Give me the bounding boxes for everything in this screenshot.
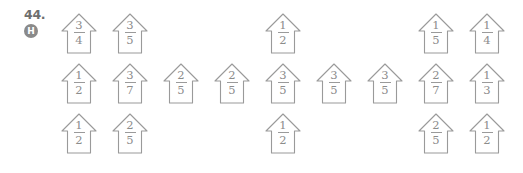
- house-icon: 12: [60, 62, 98, 105]
- fraction: 37: [111, 69, 149, 96]
- fraction: 12: [264, 119, 302, 146]
- house-icon: 35: [315, 62, 353, 105]
- fraction-denominator: 5: [366, 84, 404, 96]
- fraction-denominator: 5: [417, 34, 455, 46]
- house-icon: 12: [264, 12, 302, 55]
- fraction-numerator: 1: [468, 119, 506, 131]
- fraction-numerator: 2: [213, 69, 251, 81]
- fraction-denominator: 5: [264, 84, 302, 96]
- house-cell: 25: [111, 112, 154, 158]
- house-cell: 25: [417, 112, 460, 158]
- fraction: 12: [264, 19, 302, 46]
- fraction-numerator: 1: [60, 69, 98, 81]
- house-cell: 35: [111, 12, 154, 58]
- fraction: 27: [417, 69, 455, 96]
- house-cell: 12: [264, 112, 307, 158]
- house-cell: 12: [468, 112, 511, 158]
- fraction: 15: [417, 19, 455, 46]
- fraction-numerator: 2: [111, 119, 149, 131]
- fraction-numerator: 2: [162, 69, 200, 81]
- house-cell: 35: [264, 62, 307, 108]
- house-icon: 34: [60, 12, 98, 55]
- worksheet-problem-44: 44. H 3435121514123725253535352713122512…: [0, 0, 523, 173]
- house-icon: 12: [60, 112, 98, 155]
- house-icon: 13: [468, 62, 506, 105]
- house-cell: 34: [60, 12, 103, 58]
- fraction-denominator: 4: [60, 34, 98, 46]
- fraction: 35: [366, 69, 404, 96]
- fraction-numerator: 1: [468, 69, 506, 81]
- fraction-denominator: 7: [111, 84, 149, 96]
- fraction: 35: [315, 69, 353, 96]
- fraction-denominator: 5: [111, 134, 149, 146]
- fraction: 12: [60, 69, 98, 96]
- fraction-denominator: 5: [213, 84, 251, 96]
- house-icon: 27: [417, 62, 455, 105]
- house-icon: 35: [264, 62, 302, 105]
- fraction-denominator: 4: [468, 34, 506, 46]
- difficulty-badge: H: [24, 24, 38, 38]
- fraction: 25: [213, 69, 251, 96]
- house-cell: 12: [60, 112, 103, 158]
- fraction: 14: [468, 19, 506, 46]
- fraction-numerator: 3: [264, 69, 302, 81]
- fraction: 34: [60, 19, 98, 46]
- fraction-numerator: 2: [417, 69, 455, 81]
- fraction: 25: [111, 119, 149, 146]
- fraction: 12: [60, 119, 98, 146]
- house-icon: 14: [468, 12, 506, 55]
- fraction-denominator: 2: [468, 134, 506, 146]
- problem-number: 44.: [24, 8, 54, 21]
- house-cell: 14: [468, 12, 511, 58]
- fraction-numerator: 1: [417, 19, 455, 31]
- house-icon: 25: [162, 62, 200, 105]
- house-cell: 12: [60, 62, 103, 108]
- fraction: 13: [468, 69, 506, 96]
- fraction-numerator: 1: [60, 119, 98, 131]
- fraction-denominator: 5: [315, 84, 353, 96]
- fraction-denominator: 2: [264, 34, 302, 46]
- house-cell: 37: [111, 62, 154, 108]
- fraction-denominator: 2: [60, 134, 98, 146]
- house-cell: 13: [468, 62, 511, 108]
- house-icon: 12: [468, 112, 506, 155]
- fraction-numerator: 1: [264, 19, 302, 31]
- fraction-denominator: 5: [162, 84, 200, 96]
- fraction-numerator: 3: [366, 69, 404, 81]
- fraction-denominator: 7: [417, 84, 455, 96]
- fraction-numerator: 1: [468, 19, 506, 31]
- house-cell: 12: [264, 12, 307, 58]
- fraction-denominator: 3: [468, 84, 506, 96]
- house-icon: 35: [366, 62, 404, 105]
- fraction-numerator: 1: [264, 119, 302, 131]
- problem-label-block: 44. H: [24, 8, 54, 38]
- fraction-denominator: 2: [264, 134, 302, 146]
- fraction-numerator: 3: [111, 19, 149, 31]
- house-icon: 15: [417, 12, 455, 55]
- house-icon: 12: [264, 112, 302, 155]
- fraction-numerator: 2: [417, 119, 455, 131]
- fraction: 35: [111, 19, 149, 46]
- house-cell: 15: [417, 12, 460, 58]
- house-cell: 27: [417, 62, 460, 108]
- house-cell: 35: [366, 62, 409, 108]
- fraction: 25: [417, 119, 455, 146]
- fraction: 25: [162, 69, 200, 96]
- fraction: 35: [264, 69, 302, 96]
- fraction-denominator: 5: [111, 34, 149, 46]
- fraction-denominator: 2: [60, 84, 98, 96]
- fraction-denominator: 5: [417, 134, 455, 146]
- house-icon: 35: [111, 12, 149, 55]
- fraction-numerator: 3: [111, 69, 149, 81]
- fraction: 12: [468, 119, 506, 146]
- house-cell: 25: [213, 62, 256, 108]
- fraction-numerator: 3: [315, 69, 353, 81]
- house-cell: 25: [162, 62, 205, 108]
- house-icon: 25: [111, 112, 149, 155]
- fraction-numerator: 3: [60, 19, 98, 31]
- house-icon: 25: [417, 112, 455, 155]
- house-icon: 25: [213, 62, 251, 105]
- house-icon: 37: [111, 62, 149, 105]
- house-cell: 35: [315, 62, 358, 108]
